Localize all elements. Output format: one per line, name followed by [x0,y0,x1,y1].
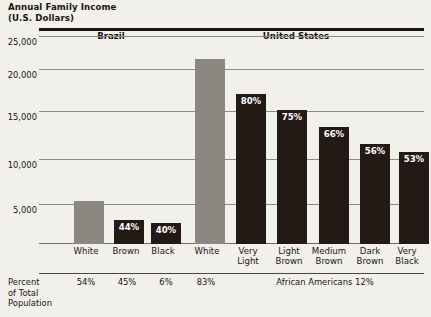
bar-value-us-very-light: 80% [236,96,266,106]
footer-pct-brazil-white: 54% [63,277,109,287]
bar-us-dark-brown[interactable]: 56% [360,144,390,244]
ytick-5000: 5,000 [1,205,37,215]
bar-us-very-light[interactable]: 80% [236,94,266,244]
bar-value-us-medium-brown: 66% [319,129,349,139]
bar-us-medium-brown[interactable]: 66% [319,127,349,244]
footer-caption: Percent of Total Population [8,277,52,309]
footer-separator-rule [39,273,424,274]
bar-brazil-black[interactable]: 40% [151,223,181,244]
category-label-us-very-black: Very Black [383,246,431,267]
gridline-20000 [39,69,424,70]
ytick-10000: 10,000 [1,160,37,170]
bar-value-us-light-brown: 75% [277,112,307,122]
footer-note-african-americans: African Americans 12% [230,277,420,287]
ytick-15000: 15,000 [1,112,37,122]
bar-us-white[interactable] [195,59,225,244]
gridline-15000 [39,111,424,112]
bar-value-us-dark-brown: 56% [360,146,390,156]
ytick-25000: 25,000 [1,37,37,47]
bar-brazil-white[interactable] [74,201,104,244]
bar-brazil-brown[interactable]: 44% [114,220,144,244]
ytick-20000: 20,000 [1,70,37,80]
bar-us-light-brown[interactable]: 75% [277,110,307,244]
footer-pct-us-white: 83% [183,277,229,287]
bar-value-brazil-black: 40% [151,225,181,235]
chart-axis-title: Annual Family Income (U.S. Dollars) [8,2,116,23]
bar-value-us-very-black: 53% [399,154,429,164]
bar-us-very-black[interactable]: 53% [399,152,429,244]
plot-area: 25,000 20,000 15,000 10,000 5,000 44% 40… [39,36,424,244]
bar-value-brazil-brown: 44% [114,222,144,232]
gridline-25000 [39,36,424,37]
chart-container: Annual Family Income (U.S. Dollars) Braz… [0,0,431,317]
